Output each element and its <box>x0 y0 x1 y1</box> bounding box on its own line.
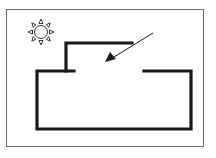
arrow-pointer-icon <box>105 33 153 62</box>
lower-box <box>37 71 191 129</box>
upper-lid <box>66 43 132 71</box>
sun-icon <box>28 19 54 45</box>
left-wall-and-base <box>37 71 191 129</box>
diagram-canvas <box>0 0 216 158</box>
